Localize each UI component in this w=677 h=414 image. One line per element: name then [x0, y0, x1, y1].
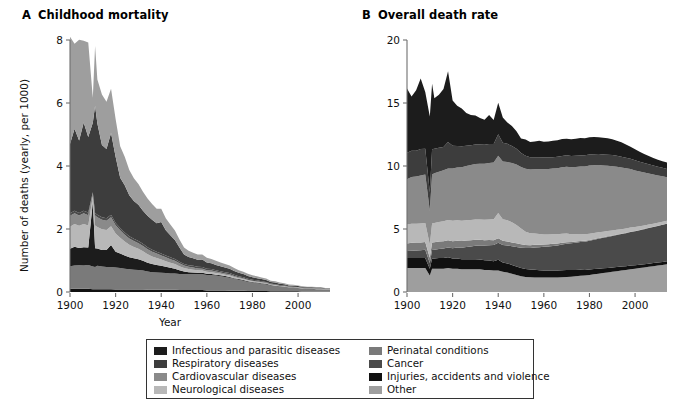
x-tick-label: 1980	[239, 299, 266, 311]
y-tick-label: 2	[56, 223, 63, 235]
x-tick-label: 1900	[394, 299, 421, 311]
y-tick-label: 20	[387, 34, 400, 46]
legend-column-right: Perinatal conditionsCancerInjuries, acci…	[367, 344, 533, 398]
y-tick-label: 10	[387, 160, 400, 172]
x-tick-label: 1920	[439, 299, 466, 311]
x-tick-label: 1960	[530, 299, 557, 311]
panel-b: BOverall death rate 05101520190019201940…	[340, 0, 677, 335]
y-tick-label: 0	[393, 286, 400, 298]
legend-item[interactable]: Neurological diseases	[154, 383, 367, 396]
legend-item-label: Cancer	[387, 357, 423, 370]
legend-swatch-icon	[369, 347, 382, 355]
y-tick-label: 0	[56, 286, 63, 298]
legend-item[interactable]: Cardiovascular diseases	[154, 370, 367, 383]
x-tick-label: 1940	[148, 299, 175, 311]
figure-root: AChildhood mortality 0246819001920194019…	[0, 0, 677, 414]
legend-swatch-icon	[369, 386, 382, 394]
panel-a: AChildhood mortality 0246819001920194019…	[0, 0, 340, 335]
y-tick-label: 8	[56, 34, 63, 46]
legend-item-label: Cardiovascular diseases	[172, 370, 296, 383]
legend-item-label: Neurological diseases	[172, 383, 284, 396]
y-tick-label: 4	[56, 160, 63, 172]
legend-swatch-icon	[369, 360, 382, 368]
y-tick-label: 15	[387, 97, 400, 109]
legend-item[interactable]: Respiratory diseases	[154, 357, 367, 370]
legend-swatch-icon	[154, 386, 167, 394]
y-tick-label: 6	[56, 97, 63, 109]
legend: Infectious and parasitic diseasesRespira…	[146, 339, 534, 399]
legend-item-label: Respiratory diseases	[172, 357, 279, 370]
panel-b-plot: 05101520190019201940196019802000	[340, 0, 677, 335]
x-tick-label: 1920	[102, 299, 129, 311]
x-tick-label: 1900	[57, 299, 84, 311]
x-tick-label: 1980	[576, 299, 603, 311]
y-tick-label: 5	[393, 223, 400, 235]
legend-swatch-icon	[154, 360, 167, 368]
x-tick-label: 2000	[285, 299, 312, 311]
legend-item[interactable]: Infectious and parasitic diseases	[154, 344, 367, 357]
legend-swatch-icon	[369, 373, 382, 381]
legend-swatch-icon	[154, 373, 167, 381]
legend-item-label: Infectious and parasitic diseases	[172, 344, 340, 357]
panel-a-plot: 02468190019201940196019802000	[0, 0, 340, 335]
legend-column-left: Infectious and parasitic diseasesRespira…	[147, 344, 367, 398]
legend-item[interactable]: Injuries, accidents and violence	[369, 370, 533, 383]
legend-swatch-icon	[154, 347, 167, 355]
legend-item[interactable]: Perinatal conditions	[369, 344, 533, 357]
legend-item-label: Perinatal conditions	[387, 344, 489, 357]
legend-item[interactable]: Other	[369, 383, 533, 396]
legend-item-label: Injuries, accidents and violence	[387, 370, 549, 383]
panel-a-ylabel: Number of deaths (yearly, per 1000)	[18, 79, 30, 272]
x-tick-label: 1940	[485, 299, 512, 311]
x-tick-label: 2000	[622, 299, 649, 311]
legend-item[interactable]: Cancer	[369, 357, 533, 370]
panel-a-xlabel: Year	[0, 316, 340, 328]
legend-item-label: Other	[387, 383, 416, 396]
x-tick-label: 1960	[193, 299, 220, 311]
